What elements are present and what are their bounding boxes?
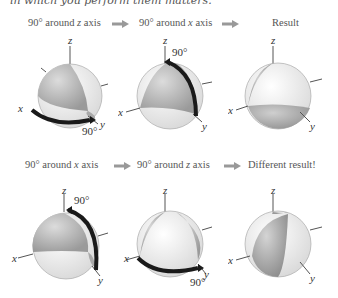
x-axis-label: x (228, 254, 233, 266)
row2-sphere1: z 90° x y (8, 186, 108, 286)
rotation-label: 90° (190, 276, 205, 286)
x-axis-label: x (123, 252, 129, 264)
x-axis-label: x (118, 106, 123, 118)
row1-step2-label: 90° around x axis (139, 17, 212, 28)
right-arrow-icon (112, 20, 129, 28)
z-axis-label: z (270, 36, 276, 46)
row2-sphere2: z x y 90° (118, 186, 218, 286)
row2-result-label: Different result! (248, 159, 316, 170)
right-arrow-icon (224, 162, 241, 170)
row1-result-label: Result (272, 17, 299, 28)
row2-labels: 90° around x axis 90° around z axis Diff… (0, 159, 338, 173)
right-arrow-icon (114, 162, 131, 170)
row2-step2-label: 90° around z axis (137, 159, 210, 170)
row1-step1-label: 90° around z axis (28, 17, 101, 28)
rotation-label: 90° (82, 125, 97, 136)
row1-sphere2: z 90° x y (118, 36, 218, 136)
right-arrow-icon (222, 20, 239, 28)
z-axis-label: z (162, 36, 168, 46)
x-axis-label: x (17, 102, 23, 114)
y-axis-label: y (97, 274, 103, 286)
rotation-label: 90° (172, 46, 187, 58)
z-axis-label: z (270, 186, 276, 196)
x-axis-label: x (11, 252, 17, 264)
row1-sphere3: z x y (228, 36, 328, 136)
y-axis-label: y (309, 120, 315, 132)
z-axis-label: z (162, 186, 168, 196)
z-axis-label: z (67, 36, 73, 46)
row2-sphere3: z x y (228, 186, 328, 286)
x-axis-label: x (228, 104, 233, 116)
row1-sphere1: z x y 90° (8, 36, 108, 136)
y-axis-label: y (99, 118, 105, 130)
rotation-label: 90° (74, 194, 89, 206)
cut-off-caption: in which you perform them matters. (10, 0, 212, 7)
y-axis-label: y (309, 272, 315, 284)
row1-labels: 90° around z axis 90° around x axis Resu… (0, 17, 338, 31)
z-axis-label: z (61, 186, 67, 196)
y-axis-label: y (201, 120, 207, 132)
row2-step1-label: 90° around x axis (25, 159, 98, 170)
